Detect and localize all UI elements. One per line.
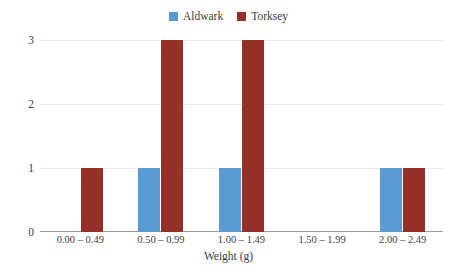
plot-area: 3 2 1 0 xyxy=(40,40,443,232)
chart-legend: Aldwark Torksey xyxy=(0,11,457,22)
x-tick-label-3: 1.50 – 1.99 xyxy=(282,234,363,246)
legend-item-torksey[interactable]: Torksey xyxy=(237,11,288,22)
bar-aldwark-4[interactable] xyxy=(380,168,402,232)
x-tick-label-2: 1.00 – 1.49 xyxy=(201,234,282,246)
bar-torksey-0[interactable] xyxy=(81,168,103,232)
bar-aldwark-2[interactable] xyxy=(219,168,241,232)
x-tick-label-0: 0.00 – 0.49 xyxy=(40,234,121,246)
clipped-caption xyxy=(18,273,438,280)
x-tick-labels: 0.00 – 0.49 0.50 – 0.99 1.00 – 1.49 1.50… xyxy=(40,234,443,246)
bar-torksey-1[interactable] xyxy=(161,40,183,232)
legend-swatch-aldwark xyxy=(169,12,178,21)
legend-label-aldwark: Aldwark xyxy=(183,11,223,22)
bar-group-3 xyxy=(282,40,363,232)
bar-chart: Aldwark Torksey 3 2 1 0 xyxy=(0,0,457,280)
legend-swatch-torksey xyxy=(237,12,246,21)
y-tick-label-3: 3 xyxy=(28,35,34,46)
legend-label-torksey: Torksey xyxy=(251,11,288,22)
y-tick-label-2: 2 xyxy=(28,99,34,110)
x-tick-label-1: 0.50 – 0.99 xyxy=(121,234,202,246)
bar-group-2 xyxy=(201,40,282,232)
legend-item-aldwark[interactable]: Aldwark xyxy=(169,11,223,22)
bar-aldwark-1[interactable] xyxy=(138,168,160,232)
bar-group-0 xyxy=(40,40,121,232)
x-tick-label-4: 2.00 – 2.49 xyxy=(362,234,443,246)
bar-group-4 xyxy=(362,40,443,232)
bar-torksey-2[interactable] xyxy=(242,40,264,232)
bar-groups xyxy=(40,40,443,232)
x-axis-title: Weight (g) xyxy=(0,250,457,263)
bar-torksey-4[interactable] xyxy=(403,168,425,232)
bar-group-1 xyxy=(121,40,202,232)
y-tick-label-0: 0 xyxy=(28,227,34,238)
y-tick-label-1: 1 xyxy=(28,163,34,174)
